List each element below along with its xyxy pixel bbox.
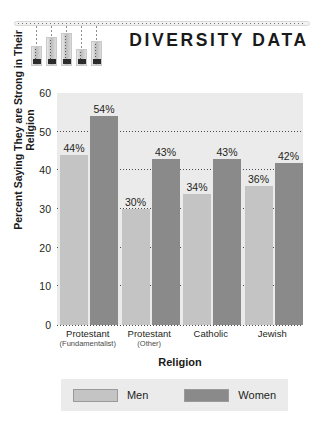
bar-men: 44% (60, 155, 88, 325)
legend-label: Women (238, 389, 276, 401)
bar-chart: Percent Saying They are Strong in Their … (0, 0, 321, 425)
x-axis-tick-label-main: Jewish (232, 328, 312, 339)
bar-value-label: 43% (216, 146, 237, 158)
y-axis-tick-label: 50 (1, 126, 51, 138)
bar-women: 43% (213, 159, 241, 325)
y-axis-tick-label: 10 (1, 280, 51, 292)
bar-group: 44%54% (58, 93, 120, 325)
y-axis-tick-label: 40 (1, 164, 51, 176)
y-axis-tick-label: 60 (1, 87, 51, 99)
bar-value-label: 54% (93, 103, 114, 115)
legend-swatch (73, 389, 118, 402)
bar-men: 36% (245, 186, 273, 325)
bar-value-label: 30% (125, 196, 146, 208)
plot-area: 44%54%30%43%34%43%36%42% (57, 93, 303, 325)
legend-swatch (184, 389, 229, 402)
chart-legend: MenWomen (61, 379, 288, 411)
y-axis-tick-label: 0 (1, 319, 51, 331)
bar-value-label: 44% (63, 142, 84, 154)
x-axis-line (57, 325, 303, 326)
bar-group: 30%43% (120, 93, 182, 325)
bar-value-label: 36% (248, 173, 269, 185)
y-axis-tick-label: 20 (1, 242, 51, 254)
bar-value-label: 42% (278, 150, 299, 162)
legend-entry: Women (184, 389, 276, 402)
bar-value-label: 43% (155, 146, 176, 158)
legend-entry: Men (73, 389, 148, 402)
y-axis-tick-label: 30 (1, 203, 51, 215)
bar-men: 34% (183, 194, 211, 325)
x-axis-tick-label-sub: (Other) (109, 339, 189, 348)
bar-women: 54% (90, 116, 118, 325)
bar-women: 43% (152, 159, 180, 325)
bar-value-label: 34% (186, 181, 207, 193)
bar-group: 36%42% (243, 93, 305, 325)
bar-men: 30% (122, 209, 150, 325)
legend-label: Men (127, 389, 148, 401)
bar-group: 34%43% (181, 93, 243, 325)
bar-women: 42% (275, 163, 303, 325)
x-axis-title: Religion (57, 356, 303, 368)
x-axis-tick-label: Jewish (232, 328, 312, 339)
